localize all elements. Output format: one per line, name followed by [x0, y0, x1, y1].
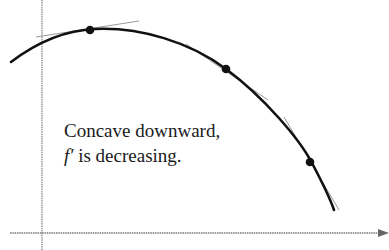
point-marker-2: [222, 65, 231, 74]
point-marker-3: [306, 158, 315, 167]
caption-line-2: f′ is decreasing.: [64, 143, 220, 168]
concavity-figure: Concave downward, f′ is decreasing.: [0, 0, 389, 250]
concavity-caption: Concave downward, f′ is decreasing.: [64, 118, 220, 168]
point-marker-1: [86, 26, 95, 35]
x-axis-arrow-icon: [378, 229, 389, 237]
caption-line-2-text: is decreasing.: [73, 145, 181, 166]
caption-line-1: Concave downward,: [64, 118, 220, 143]
